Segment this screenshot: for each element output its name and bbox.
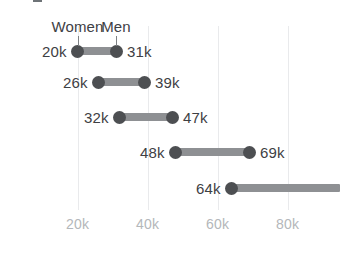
series-label-men: Men xyxy=(101,18,130,35)
range-connector xyxy=(120,113,173,121)
leader-line xyxy=(116,36,117,46)
x-tick-label: 80k xyxy=(276,216,299,232)
dumbbell-row: 48k69k xyxy=(0,139,341,165)
data-point-end xyxy=(110,45,123,58)
value-label-start: 64k xyxy=(196,180,221,197)
value-label-end: 39k xyxy=(155,74,180,91)
dumbbell-row: 26k39k xyxy=(0,69,341,95)
range-connector xyxy=(232,184,341,192)
data-point-end xyxy=(243,146,256,159)
x-tick-label: 40k xyxy=(136,216,159,232)
value-label-start: 32k xyxy=(84,109,109,126)
dumbbell-row: 64k xyxy=(0,175,341,201)
x-tick-label: 60k xyxy=(206,216,229,232)
value-label-start: 48k xyxy=(140,144,165,161)
data-point-start xyxy=(92,76,105,89)
value-label-end: 47k xyxy=(183,109,208,126)
dumbbell-row: 32k47k xyxy=(0,104,341,130)
data-point-start xyxy=(225,182,238,195)
data-point-end xyxy=(166,111,179,124)
series-label-women: Women xyxy=(52,18,104,35)
data-point-start xyxy=(71,45,84,58)
value-label-start: 26k xyxy=(63,74,88,91)
x-tick-label: 20k xyxy=(66,216,89,232)
plot-area: 20k31k26k39k32k47k48k69k64k WomenMen 20k… xyxy=(0,0,341,254)
dumbbell-chart: 20k31k26k39k32k47k48k69k64k WomenMen 20k… xyxy=(0,0,341,254)
data-point-end xyxy=(138,76,151,89)
value-label-start: 20k xyxy=(42,43,67,60)
range-connector xyxy=(176,148,250,156)
value-label-end: 31k xyxy=(127,43,152,60)
value-label-end: 69k xyxy=(260,144,285,161)
data-point-start xyxy=(113,111,126,124)
dumbbell-row: 20k31k xyxy=(0,38,341,64)
leader-line xyxy=(78,36,79,46)
data-point-start xyxy=(169,146,182,159)
